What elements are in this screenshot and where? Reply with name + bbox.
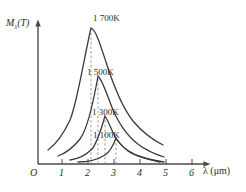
- blackbody-curves: [48, 28, 164, 162]
- blackbody-radiation-chart: Mλ(T) O λ (μm) 1 2 3 4 5 6 1 700K 1 500K…: [0, 0, 246, 192]
- curve-label-1700k: 1 700K: [93, 14, 120, 23]
- x-tick-label-1: 1: [59, 168, 64, 178]
- x-tick-label-5: 5: [163, 168, 168, 178]
- y-axis-label: Mλ(T): [6, 18, 29, 31]
- y-axis-label-argument: (T): [17, 17, 29, 28]
- x-tick-label-3: 3: [111, 168, 116, 178]
- curve-label-1500k: 1 500K: [87, 68, 114, 77]
- x-tick-label-2: 2: [85, 168, 90, 178]
- x-tick-label-4: 4: [137, 168, 142, 178]
- curve-label-1100k: 1 100K: [93, 131, 120, 140]
- curve-label-1300k: 1 300K: [92, 108, 119, 117]
- x-tick-label-6: 6: [189, 168, 194, 178]
- x-axis-label: λ (μm): [203, 166, 230, 176]
- origin-label: O: [30, 168, 37, 178]
- chart-canvas: [0, 0, 246, 192]
